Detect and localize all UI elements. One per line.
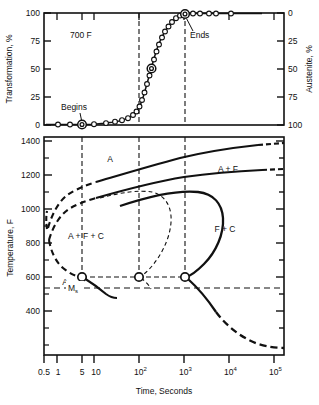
ms-subscript: s [75, 288, 78, 294]
bottom-x-tick-5: 5 [80, 367, 85, 377]
bottom-y-tick-1000: 1000 [21, 204, 40, 214]
begins-leader [80, 113, 82, 120]
ttt-figure: 100 75 50 25 0 0 25 50 75 100 Transforma… [0, 0, 319, 405]
top-left-tick-75: 75 [31, 36, 41, 46]
begins-label: Begins [61, 102, 87, 112]
start-curve-upper-dashed-right [258, 143, 284, 145]
start-curve-descending-dashed [49, 240, 80, 277]
top-left-axis-title: Transformation, % [4, 34, 14, 104]
bottom-y-tick-800: 800 [26, 238, 40, 248]
fifty-percent-marker [147, 64, 156, 73]
tick-exp-1e5: 5 [278, 366, 282, 372]
bottom-x-tick-10: 10 [91, 367, 101, 377]
marker-ends-ttt [181, 273, 189, 281]
finish-curve-upper [120, 192, 223, 277]
region-f-c: F + C [214, 224, 235, 234]
bottom-y-tick-1400: 1400 [21, 136, 40, 146]
tick-base-1e2: 10 [134, 367, 144, 377]
bottom-x-tick-1: 1 [56, 367, 61, 377]
bottom-x-tick-1e5: 105 [269, 366, 282, 377]
marker-50pct-ttt [135, 273, 143, 281]
svg-text:104: 104 [224, 366, 237, 377]
tick-exp-1e3: 3 [188, 366, 192, 372]
marker-begins-ttt [78, 273, 86, 281]
start-curve-dashed-left [48, 182, 96, 228]
bottom-x-tick-1e2: 102 [134, 366, 147, 377]
figure-root: 100 75 50 25 0 0 25 50 75 100 Transforma… [0, 0, 319, 405]
bottom-x-tick-1e3: 103 [179, 366, 192, 377]
begins-marker [78, 120, 87, 129]
top-right-ticks [277, 13, 284, 125]
ends-marker [181, 10, 190, 19]
top-right-tick-75: 75 [288, 92, 298, 102]
bottom-x-tick-1e4: 104 [224, 366, 237, 377]
finish-curve-below-700 [188, 279, 216, 312]
ends-label: Ends [190, 30, 209, 40]
svg-text:102: 102 [134, 366, 147, 377]
region-a-top: A [107, 154, 113, 164]
tick-base-1e4: 10 [224, 367, 234, 377]
top-right-axis-title: Austenite, % [304, 45, 314, 93]
bottom-x-ticks [44, 355, 274, 363]
region-a-f-c: A + F + C [68, 231, 104, 241]
region-a-f: A + F [218, 164, 238, 174]
tick-base-1e5: 10 [269, 367, 279, 377]
tick-exp-1e4: 4 [233, 366, 237, 372]
fifty-percent-curve [100, 191, 171, 276]
top-left-tick-50: 50 [31, 64, 41, 74]
svg-text:103: 103 [179, 366, 192, 377]
top-left-ticks [44, 13, 51, 125]
top-right-tick-50: 50 [288, 64, 298, 74]
top-right-tick-25: 25 [288, 36, 298, 46]
ms-label-group: Ms [66, 281, 84, 294]
bottom-y-tick-1200: 1200 [21, 170, 40, 180]
bottom-y-axis-title: Temperature, F [5, 219, 15, 277]
top-panel: 100 75 50 25 0 0 25 50 75 100 Transforma… [4, 8, 314, 130]
top-left-tick-0: 0 [35, 120, 40, 130]
bottom-y-tick-400: 400 [26, 306, 40, 316]
bottom-x-axis-title: Time, Seconds [136, 386, 192, 396]
second-curve-dashed-right [262, 169, 284, 170]
top-right-tick-0: 0 [288, 8, 293, 18]
top-right-tick-100: 100 [288, 120, 302, 130]
svg-text:105: 105 [269, 366, 282, 377]
ms-label: M [68, 283, 75, 293]
temperature-label: 700 F [70, 30, 92, 40]
finish-curve-dashed-tail [216, 312, 284, 348]
top-left-tick-25: 25 [31, 92, 41, 102]
bottom-panel: 1400 1200 1000 800 600 400 Temperature, … [5, 136, 284, 396]
top-left-tick-100: 100 [26, 8, 40, 18]
tick-base-1e3: 10 [179, 367, 189, 377]
bottom-y-tick-600: 600 [26, 272, 40, 282]
left-edge-dashed-stub [46, 211, 47, 229]
tick-exp-1e2: 2 [143, 366, 147, 372]
bottom-x-tick-0p5: 0.5 [38, 367, 50, 377]
